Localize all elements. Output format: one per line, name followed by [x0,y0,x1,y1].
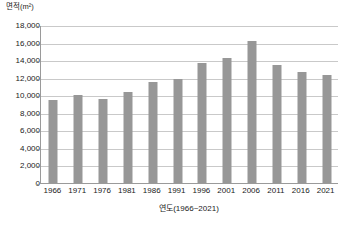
x-tick-label: 1981 [118,186,136,196]
y-tick-mark [36,44,39,45]
bar-slot [265,26,290,183]
bar-slot [215,26,240,183]
bars-layer [41,26,338,183]
bar[interactable] [272,65,281,183]
y-tick-label: 6,000 [4,127,40,135]
bar[interactable] [198,63,207,183]
bar-slot [165,26,190,183]
bar-slot [91,26,116,183]
y-axis-title: 면적(m²) [6,2,34,12]
y-tick-label: 2,000 [4,162,40,170]
y-tick-label: 4,000 [4,145,40,153]
y-tick-mark [36,26,39,27]
bar[interactable] [123,92,132,183]
bar-slot [314,26,339,183]
bar-chart: 면적(m²) 02,0004,0006,0008,00010,00012,000… [0,0,344,228]
y-tick-label: 14,000 [4,57,40,65]
bar-slot [66,26,91,183]
bar[interactable] [148,82,157,183]
bar[interactable] [74,95,83,183]
y-tick-label: 0 [4,180,40,188]
x-tick-label: 1991 [168,186,186,196]
y-tick-label: 12,000 [4,75,40,83]
y-tick-mark [36,131,39,132]
y-tick-mark [36,114,39,115]
x-tick-label: 2016 [292,186,310,196]
bar-slot [289,26,314,183]
bar-slot [240,26,265,183]
x-tick-label: 1976 [93,186,111,196]
x-tick-label: 2001 [217,186,235,196]
bar-slot [190,26,215,183]
y-tick-mark [36,149,39,150]
x-axis-title: 연도(1966~2021) [40,203,338,214]
bar[interactable] [248,41,257,183]
y-tick-mark [36,96,39,97]
y-axis-tick-labels: 02,0004,0006,0008,00010,00012,00014,0001… [0,26,40,184]
y-tick-label: 18,000 [4,22,40,30]
bar[interactable] [322,75,331,183]
y-tick-mark [36,184,39,185]
bar-slot [116,26,141,183]
y-tick-label: 8,000 [4,110,40,118]
y-tick-label: 10,000 [4,92,40,100]
x-tick-label: 2021 [317,186,335,196]
bar-slot [41,26,66,183]
bar-slot [140,26,165,183]
plot-area [40,26,338,184]
y-tick-mark [36,61,39,62]
x-tick-label: 1971 [68,186,86,196]
bar[interactable] [49,100,58,183]
bar[interactable] [223,58,232,183]
y-tick-mark [36,79,39,80]
x-tick-label: 1996 [193,186,211,196]
y-tick-label: 16,000 [4,40,40,48]
bar[interactable] [297,72,306,183]
y-tick-mark [36,166,39,167]
bar[interactable] [173,79,182,183]
x-tick-label: 2006 [242,186,260,196]
x-tick-label: 1966 [44,186,62,196]
x-tick-label: 1986 [143,186,161,196]
bar[interactable] [99,99,108,183]
x-tick-label: 2011 [267,186,284,196]
x-axis-tick-labels: 1966197119761981198619911996200120062011… [40,186,338,200]
